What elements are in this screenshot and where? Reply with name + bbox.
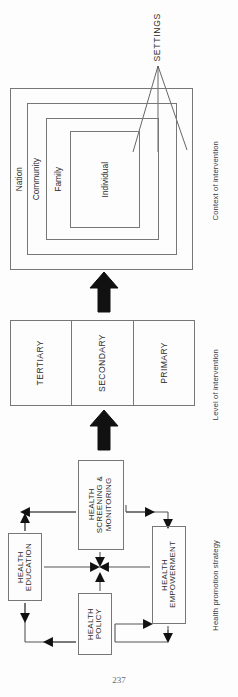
column-caption-level: Level of intervention xyxy=(207,330,225,440)
strategy-label-health-empowerment: HEALTHEMPOWERMENT xyxy=(152,526,186,624)
strategy-label-health-policy: HEALTHPOLICY xyxy=(78,593,112,655)
health-promotion-strategy-panel: HEALTHEDUCATION HEALTHSCREENING &MONITOR… xyxy=(0,450,238,697)
nested-box-label-individual: Individual xyxy=(70,131,140,228)
individual-text: Individual xyxy=(101,162,110,197)
community-text: Community xyxy=(32,158,41,200)
health-education-text: HEALTHEDUCATION xyxy=(17,543,34,591)
strategy-label-health-education: HEALTHEDUCATION xyxy=(8,533,42,601)
nation-text: Nation xyxy=(15,167,24,191)
level-cell-secondary: SECONDARY xyxy=(72,320,134,406)
health-empowerment-text: HEALTHEMPOWERMENT xyxy=(161,541,178,608)
level-cell-primary: PRIMARY xyxy=(134,320,195,406)
family-text: Family xyxy=(54,167,63,192)
context-of-intervention-panel: SETTINGS Nation Community Family Individ… xyxy=(0,0,238,300)
column-caption-strategy: Health promotion strategy xyxy=(207,520,225,650)
tertiary-text: TERTIARY xyxy=(36,340,45,385)
column-caption-context: Context of intervention xyxy=(207,122,225,240)
health-policy-text: HEALTHPOLICY xyxy=(87,608,104,640)
level-cell-tertiary: TERTIARY xyxy=(10,320,72,406)
health-screening-text: HEALTHSCREENING &MONITORING xyxy=(88,476,113,533)
nested-box-label-community: Community xyxy=(27,103,46,255)
caption-strategy-text: Health promotion strategy xyxy=(212,540,220,631)
strategy-label-health-screening: HEALTHSCREENING &MONITORING xyxy=(78,460,124,550)
caption-level-text: Level of intervention xyxy=(212,349,220,420)
caption-context-text: Context of intervention xyxy=(212,141,220,220)
nested-box-label-family: Family xyxy=(46,118,70,240)
level-of-intervention-panel: TERTIARY SECONDARY PRIMARY xyxy=(0,300,238,450)
nested-box-label-nation: Nation xyxy=(10,88,28,270)
primary-text: PRIMARY xyxy=(160,342,169,384)
page-number: 237 xyxy=(0,675,238,685)
secondary-text: SECONDARY xyxy=(98,334,107,392)
